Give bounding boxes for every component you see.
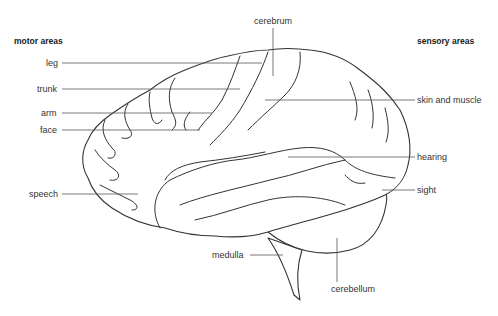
label-speech: speech — [29, 189, 58, 199]
label-medulla: medulla — [212, 250, 244, 260]
motor-areas-heading: motor areas — [14, 36, 63, 46]
label-cerebellum: cerebellum — [331, 284, 375, 294]
sensory-areas-heading: sensory areas — [417, 36, 474, 46]
label-arm: arm — [41, 108, 57, 118]
label-sight: sight — [417, 185, 436, 195]
label-hearing: hearing — [417, 152, 447, 162]
label-face: face — [40, 125, 57, 135]
label-leg: leg — [46, 58, 58, 68]
label-trunk: trunk — [37, 84, 57, 94]
label-cerebrum: cerebrum — [254, 16, 292, 26]
label-skin-and-muscle: skin and muscle — [417, 95, 482, 105]
